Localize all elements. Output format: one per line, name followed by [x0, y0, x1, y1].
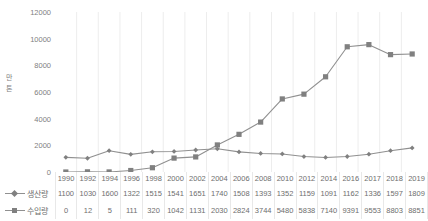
table-header-year: 1996 — [121, 172, 143, 185]
table-row-production: 생산량 110010301600132215151541165117401508… — [0, 185, 428, 202]
chart-container: 만 톤 12000 10000 8000 6000 4000 2000 0 19… — [0, 0, 428, 221]
data-point-marker-production — [302, 154, 307, 159]
data-point-marker-production — [366, 152, 371, 157]
data-point-marker-production — [237, 149, 242, 154]
table-cell-production: 1809 — [406, 185, 428, 202]
table-cell-import: 2030 — [208, 202, 230, 219]
table-cell-import: 8851 — [406, 202, 428, 219]
data-point-marker-import — [150, 165, 155, 170]
table-cell-import: 3744 — [252, 202, 274, 219]
table-header-year: 2014 — [318, 172, 340, 185]
data-point-marker-import — [215, 142, 220, 147]
table-cell-import: 5838 — [296, 202, 318, 219]
legend-label-import: 수입량 — [27, 205, 48, 216]
legend-item-import[interactable]: 수입량 — [0, 202, 55, 219]
table-header-year: 2008 — [252, 172, 274, 185]
table-cell-import: 2824 — [230, 202, 252, 219]
table-cell-import: 1131 — [186, 202, 208, 219]
y-axis-tick-labels: 12000 10000 8000 6000 4000 2000 0 — [16, 0, 53, 176]
legend-item-production[interactable]: 생산량 — [0, 185, 55, 202]
data-point-marker-production — [128, 152, 133, 157]
data-point-marker-import — [236, 132, 241, 137]
legend-label-production: 생산량 — [27, 188, 48, 199]
table-cell-production: 1600 — [99, 185, 121, 202]
data-point-marker-production — [388, 148, 393, 153]
y-tick-10000: 10000 — [30, 34, 51, 43]
y-axis-title-char-2: 톤 — [2, 83, 16, 94]
table-cell-import: 8803 — [384, 202, 406, 219]
table-header-year: 1994 — [99, 172, 121, 185]
data-point-marker-production — [193, 148, 198, 153]
table-cell-import: 320 — [143, 202, 165, 219]
y-tick-8000: 8000 — [34, 61, 51, 70]
data-point-marker-import — [366, 42, 371, 47]
y-axis-title: 만 톤 — [2, 72, 16, 94]
table-header-year: 2000 — [165, 172, 187, 185]
table-header-year: 2006 — [230, 172, 252, 185]
table-corner-cell — [0, 172, 55, 185]
data-point-marker-production — [85, 156, 90, 161]
table-header-year: 2018 — [384, 172, 406, 185]
data-point-marker-production — [345, 154, 350, 159]
table-header-year: 1992 — [77, 172, 99, 185]
data-point-marker-production — [63, 155, 68, 160]
table-cell-import: 1042 — [165, 202, 187, 219]
data-point-marker-production — [258, 151, 263, 156]
table-cell-production: 1100 — [55, 185, 77, 202]
data-point-marker-import — [280, 96, 285, 101]
diamond-marker-icon — [11, 190, 18, 197]
table-cell-production: 1541 — [165, 185, 187, 202]
table-cell-production: 1091 — [318, 185, 340, 202]
table-cell-production: 1030 — [77, 185, 99, 202]
legend-line-import — [5, 207, 25, 215]
table-cell-import: 5 — [99, 202, 121, 219]
plot-area — [55, 12, 423, 172]
table-cell-import: 111 — [121, 202, 143, 219]
table-cell-import: 9391 — [340, 202, 362, 219]
y-tick-4000: 4000 — [34, 114, 51, 123]
data-table: 1990199219941996199820002002200420062008… — [0, 172, 428, 221]
table-header-year: 2010 — [274, 172, 296, 185]
table-header-row: 1990199219941996199820002002200420062008… — [0, 172, 428, 185]
data-point-marker-import — [301, 92, 306, 97]
data-point-marker-production — [323, 155, 328, 160]
data-point-marker-import — [345, 44, 350, 49]
data-point-marker-import — [323, 74, 328, 79]
table-cell-production: 1740 — [208, 185, 230, 202]
series-layer — [63, 42, 415, 172]
table-row-import: 수입량 012511132010421131203028243744548058… — [0, 202, 428, 219]
table-cell-production: 1515 — [143, 185, 165, 202]
table-cell-production: 1651 — [186, 185, 208, 202]
table-cell-production: 1393 — [252, 185, 274, 202]
table-header-year: 2012 — [296, 172, 318, 185]
table-header-year: 1990 — [55, 172, 77, 185]
table-cell-import: 5480 — [274, 202, 296, 219]
series-value-table: 1990199219941996199820002002200420062008… — [0, 172, 428, 219]
gridlines — [77, 12, 402, 172]
table-header-year: 2016 — [340, 172, 362, 185]
data-point-marker-production — [172, 149, 177, 154]
table-cell-production: 1352 — [274, 185, 296, 202]
table-cell-production: 1508 — [230, 185, 252, 202]
data-point-marker-production — [107, 148, 112, 153]
table-cell-import: 9553 — [362, 202, 384, 219]
table-cell-production: 1336 — [362, 185, 384, 202]
table-cell-import: 7140 — [318, 202, 340, 219]
table-cell-production: 1159 — [296, 185, 318, 202]
table-header-year: 2002 — [186, 172, 208, 185]
y-tick-12000: 12000 — [30, 8, 51, 17]
plot-svg — [55, 12, 423, 172]
data-point-marker-import — [171, 156, 176, 161]
data-point-marker-import — [388, 52, 393, 57]
data-point-marker-production — [410, 145, 415, 150]
data-point-marker-import — [410, 51, 415, 56]
table-header-year: 2019 — [406, 172, 428, 185]
legend-line-production — [5, 190, 25, 198]
table-cell-import: 0 — [55, 202, 77, 219]
data-point-marker-production — [150, 149, 155, 154]
table-cell-production: 1322 — [121, 185, 143, 202]
y-axis-title-char-1: 만 — [2, 72, 16, 83]
table-header-year: 2017 — [362, 172, 384, 185]
table-header-year: 2004 — [208, 172, 230, 185]
table-cell-production: 1597 — [384, 185, 406, 202]
